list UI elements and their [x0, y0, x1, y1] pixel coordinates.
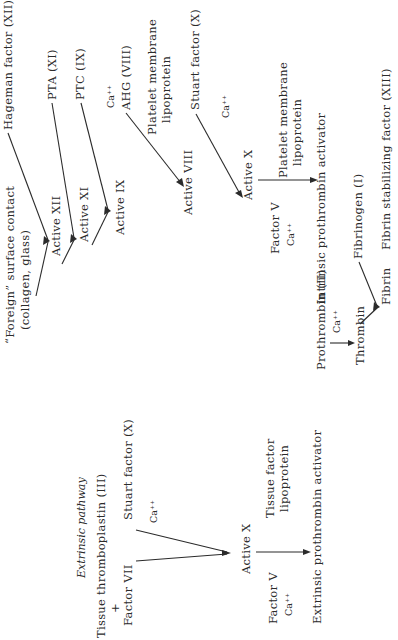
fibrin-stabilizing-factor-label: Fibrin stabilizing factor (XIII): [379, 68, 393, 250]
tissue-thromboplastin-label: Tissue thromboplastin (III): [94, 473, 108, 638]
platelet-lipoprotein-2-line1: Platelet membrane: [276, 62, 290, 178]
intrinsic-factor-v-label: Factor V: [268, 202, 282, 254]
extrinsic-factor-v-calcium: Ca⁺⁺: [283, 593, 294, 616]
factor-vii-to-active-x-line: [136, 554, 227, 561]
platelet-lipoprotein-1-line2: lipoprotein: [159, 55, 173, 123]
active-ix-label: Active IX: [113, 179, 127, 236]
pta-label: PTA (XI): [45, 49, 59, 100]
intrinsic-calcium-2-label: Ca⁺⁺: [220, 95, 231, 118]
intrinsic-active-x-label: Active X: [241, 149, 255, 201]
active-xii-label: Active XII: [49, 196, 63, 257]
stuart-to-active-x-arrow: [196, 114, 240, 194]
extrinsic-prothrombin-activator-label: Extrinsic prothrombin activator: [310, 430, 324, 624]
tissue-factor-label: Tissue factor: [263, 438, 277, 518]
active-viii-label: Active VIII: [181, 150, 195, 216]
coagulation-diagram: Extrinsic pathway Tissue thromboplastin …: [0, 0, 398, 640]
rotated-diagram-page: Extrinsic pathway Tissue thromboplastin …: [0, 0, 398, 640]
fibrinogen-label: Fibrinogen (I): [351, 174, 365, 259]
stuart-to-active-x-line: [136, 530, 227, 552]
prothrombin-calcium-label: Ca⁺⁺: [331, 310, 342, 333]
plus-sign: +: [108, 603, 122, 613]
hageman-factor-label: Hageman factor (XII): [1, 0, 15, 130]
fibrin-label: Fibrin: [379, 267, 393, 305]
platelet-lipoprotein-2-line2: lipoprotein: [290, 98, 304, 166]
extrinsic-heading: Extrinsic pathway: [75, 477, 88, 579]
arrowhead: [222, 550, 231, 556]
active-xi-to-active-ix-line: [92, 212, 108, 245]
extrinsic-active-x-label: Active X: [239, 523, 253, 575]
collagen-glass-label: (collagen, glass): [18, 230, 32, 330]
ahg-label: AHG (VIII): [119, 45, 133, 111]
active-xi-label: Active XI: [77, 187, 91, 243]
intrinsic-factor-v-calcium: Ca⁺⁺: [285, 223, 296, 246]
thrombin-label: Thrombin: [353, 305, 367, 365]
surface-to-active-xii-line: [36, 242, 48, 296]
foreign-surface-contact-label: “Foreign” surface contact: [3, 186, 17, 344]
extrinsic-stuart-factor-label: Stuart factor (X): [121, 419, 135, 520]
tissue-factor-lipoprotein-label: lipoprotein: [277, 444, 291, 512]
prothrombin-label: Prothrombin (II): [314, 270, 328, 370]
intrinsic-stuart-factor-label: Stuart factor (X): [188, 9, 202, 110]
fibrinogen-to-fibrin-line: [359, 262, 377, 306]
extrinsic-calcium-label: Ca⁺⁺: [148, 500, 159, 523]
extrinsic-factor-v-label: Factor V: [266, 572, 280, 624]
platelet-lipoprotein-1-line1: Platelet membrane: [145, 19, 159, 135]
intrinsic-calcium-1-label: Ca⁺⁺: [105, 85, 116, 108]
active-xii-to-active-xi-line: [62, 240, 74, 264]
ptc-label: PTC (IX): [73, 48, 87, 100]
factor-vii-label: Factor VII: [121, 564, 135, 626]
